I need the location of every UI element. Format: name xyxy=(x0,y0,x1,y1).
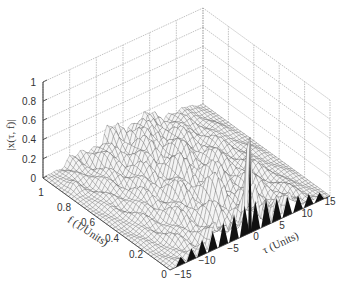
tau-tick: 10 xyxy=(301,208,313,219)
tau-axis-label: τ (Units) xyxy=(260,229,301,257)
tau-tick: −5 xyxy=(227,243,239,254)
tau-tick: 0 xyxy=(253,231,259,242)
z-tick: 0.8 xyxy=(22,96,36,107)
f-tick: 0 xyxy=(161,269,167,280)
tau-tick: 5 xyxy=(279,220,285,231)
z-axis-ticks: 0 0.2 0.4 0.6 0.8 1 xyxy=(22,77,36,184)
tau-tick: −15 xyxy=(175,269,192,280)
z-tick: 0.2 xyxy=(22,154,36,165)
f-tick: 0.2 xyxy=(129,249,143,260)
z-tick: 0.6 xyxy=(22,115,36,126)
z-tick: 0.4 xyxy=(22,134,36,145)
tau-tick: −10 xyxy=(199,255,216,266)
z-tick: 0 xyxy=(30,173,36,184)
surface-plot: 0 0.2 0.4 0.6 0.8 1 1 0.8 0.6 0.4 0.2 0 … xyxy=(0,0,342,282)
z-axis-label: |x(τ, f)| xyxy=(4,120,17,151)
f-tick: 0.8 xyxy=(57,202,71,213)
z-tick: 1 xyxy=(30,77,36,88)
tau-tick: 15 xyxy=(324,196,336,207)
f-tick: 1 xyxy=(38,187,44,198)
